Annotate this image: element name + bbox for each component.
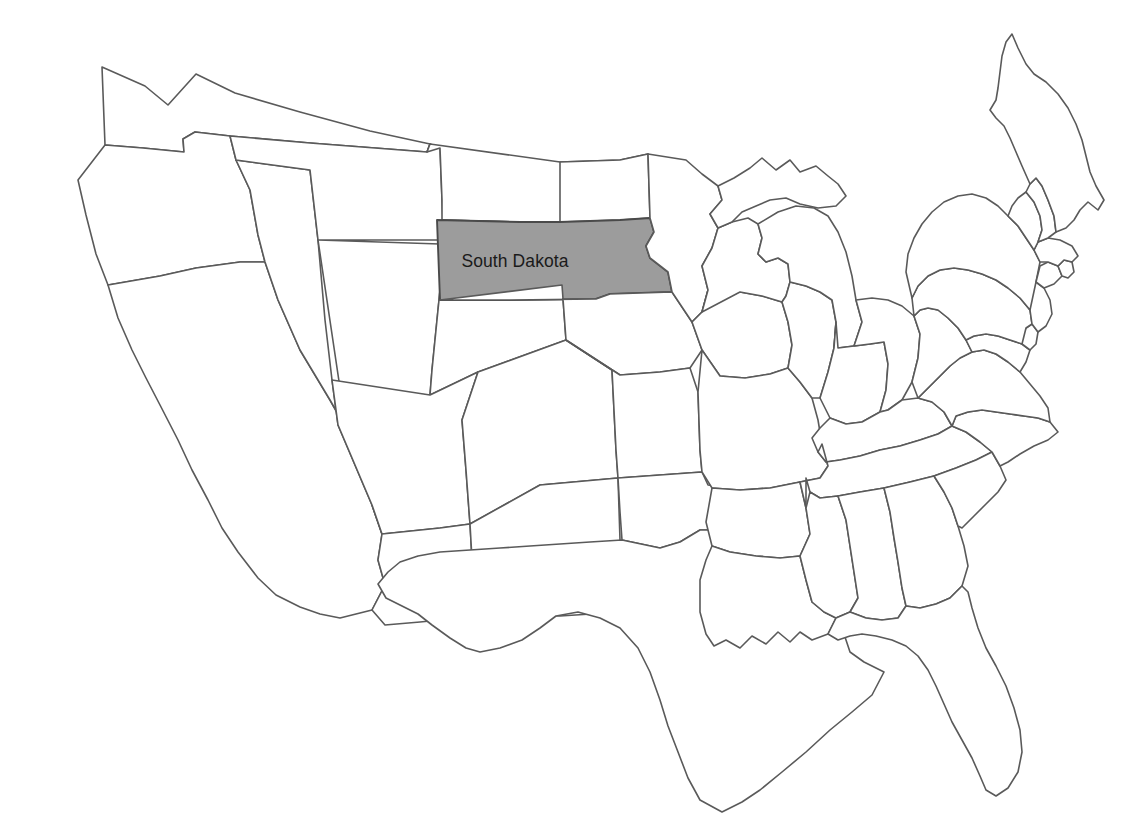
state-massachusetts[interactable] (1034, 238, 1078, 266)
state-label-south-dakota: South Dakota (461, 251, 568, 271)
state-north-dakota[interactable] (560, 154, 650, 222)
state-arkansas[interactable] (706, 482, 810, 558)
us-map-container: South Dakota (0, 0, 1137, 837)
us-states-map: South Dakota (0, 0, 1137, 837)
